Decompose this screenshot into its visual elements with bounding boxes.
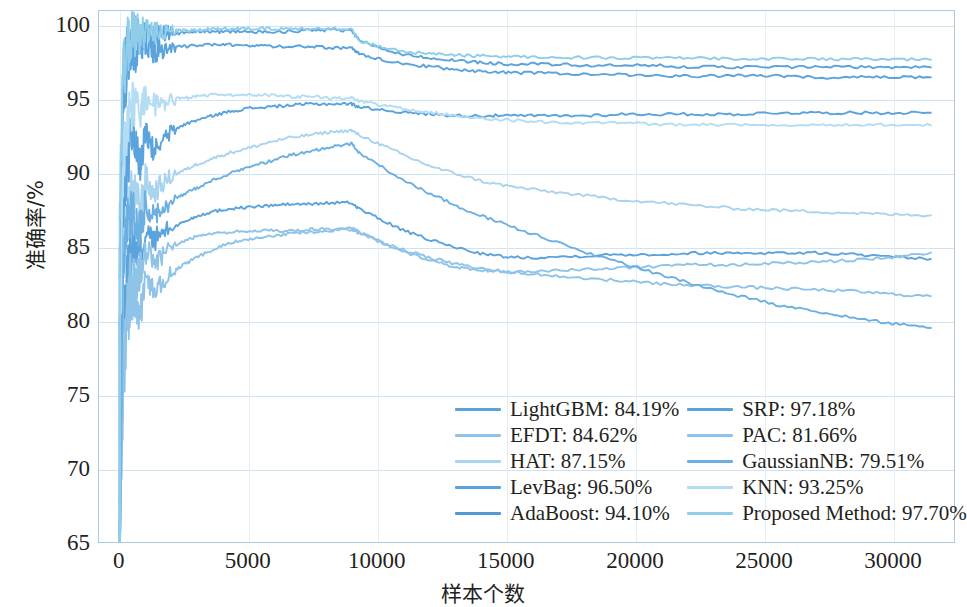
- legend-item[interactable]: KNN: 93.25%: [687, 474, 967, 500]
- legend-item[interactable]: SRP: 97.18%: [687, 396, 967, 422]
- legend-column: SRP: 97.18%PAC: 81.66%GaussianNB: 79.51%…: [687, 396, 967, 526]
- legend-color-swatch: [455, 434, 501, 437]
- legend-item[interactable]: LevBag: 96.50%: [455, 474, 679, 500]
- legend-color-swatch: [455, 512, 501, 515]
- legend-item[interactable]: GaussianNB: 79.51%: [687, 448, 967, 474]
- legend-color-swatch: [455, 408, 501, 411]
- legend-color-swatch: [687, 408, 733, 411]
- series-line: [120, 30, 931, 339]
- legend-item-label: LevBag: 96.50%: [510, 477, 652, 498]
- legend-item-label: AdaBoost: 94.10%: [510, 503, 670, 524]
- legend-color-swatch: [687, 512, 733, 515]
- legend-color-swatch: [455, 460, 501, 463]
- x-axis-tick-label: 25000: [735, 549, 793, 572]
- x-axis-tick-label: 10000: [348, 549, 406, 572]
- y-axis-tick-label: 100: [0, 13, 90, 36]
- legend-item-label: HAT: 87.15%: [510, 451, 626, 472]
- legend-color-swatch: [687, 460, 733, 463]
- y-axis-tick-label: 95: [0, 87, 90, 110]
- legend-item[interactable]: LightGBM: 84.19%: [455, 396, 679, 422]
- legend-item[interactable]: AdaBoost: 94.10%: [455, 500, 679, 526]
- legend-item-label: Proposed Method: 97.70%: [742, 503, 967, 524]
- y-axis-tick-label: 85: [0, 235, 90, 258]
- series-line: [120, 103, 931, 439]
- legend-item[interactable]: HAT: 87.15%: [455, 448, 679, 474]
- x-axis-tick-label: 5000: [225, 549, 271, 572]
- y-axis-tick-label: 65: [0, 531, 90, 554]
- x-axis-tick-label: 15000: [477, 549, 535, 572]
- y-axis-tick-label: 90: [0, 161, 90, 184]
- y-axis-tick-label: 80: [0, 309, 90, 332]
- legend-item-label: EFDT: 84.62%: [510, 425, 637, 446]
- legend-item-label: SRP: 97.18%: [742, 399, 855, 420]
- legend-color-swatch: [455, 486, 501, 489]
- legend-color-swatch: [687, 486, 733, 489]
- legend-item[interactable]: Proposed Method: 97.70%: [687, 500, 967, 526]
- legend-column: LightGBM: 84.19%EFDT: 84.62%HAT: 87.15%L…: [455, 396, 679, 526]
- legend-item-label: LightGBM: 84.19%: [510, 399, 679, 420]
- legend-item-label: KNN: 93.25%: [742, 477, 863, 498]
- legend-item[interactable]: EFDT: 84.62%: [455, 422, 679, 448]
- legend-item-label: PAC: 81.66%: [742, 425, 857, 446]
- y-axis-tick-label: 75: [0, 383, 90, 406]
- legend: LightGBM: 84.19%EFDT: 84.62%HAT: 87.15%L…: [455, 396, 967, 526]
- legend-item-label: GaussianNB: 79.51%: [742, 451, 924, 472]
- x-axis-tick-label: 0: [113, 549, 125, 572]
- x-axis-label: 样本个数: [0, 577, 965, 607]
- legend-item[interactable]: PAC: 81.66%: [687, 422, 967, 448]
- y-axis-tick-label: 70: [0, 457, 90, 480]
- series-line: [120, 16, 931, 278]
- x-axis-tick-label: 20000: [606, 549, 664, 572]
- series-line: [120, 82, 931, 391]
- legend-color-swatch: [687, 434, 733, 437]
- x-axis-tick-label: 30000: [864, 549, 922, 572]
